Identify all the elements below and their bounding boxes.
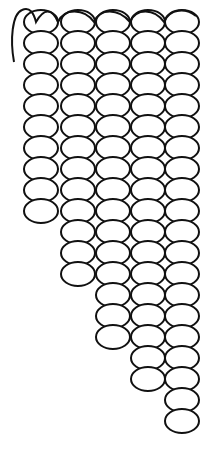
bead-grid [24, 10, 199, 433]
bead [131, 367, 165, 391]
bead [165, 409, 199, 433]
bead [96, 325, 130, 349]
bead [61, 262, 95, 286]
beadwork-illustration [0, 0, 214, 462]
bead [24, 199, 58, 223]
